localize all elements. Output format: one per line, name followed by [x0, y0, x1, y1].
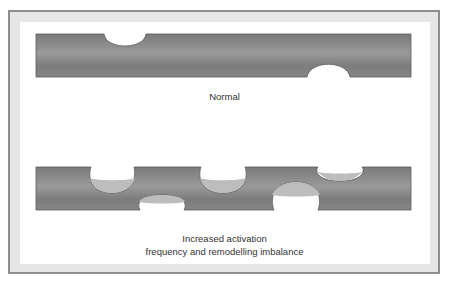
imbalance-label-line1: Increased activation	[0, 233, 449, 245]
imbalance-label-line2: frequency and remodelling imbalance	[0, 246, 449, 258]
normal-label: Normal	[0, 91, 449, 103]
imbalanced-bone-bar	[36, 167, 411, 210]
normal-bone-bar	[36, 34, 411, 77]
